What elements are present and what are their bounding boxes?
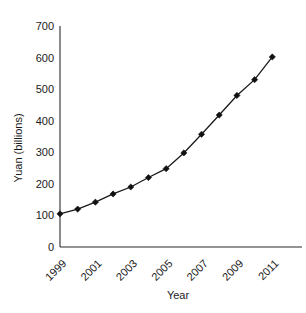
- y-tick-label: 400: [36, 115, 54, 127]
- x-tick-label: 2009: [220, 257, 246, 283]
- x-tick-label: 2007: [184, 257, 210, 283]
- x-axis-title: Year: [167, 289, 190, 301]
- y-tick-labels: 0100200300400500600700: [36, 20, 54, 253]
- data-point-marker: [57, 211, 63, 217]
- data-point-marker: [110, 191, 116, 197]
- x-tick-label: 1999: [43, 257, 69, 283]
- y-tick-label: 100: [36, 209, 54, 221]
- x-tick-label: 2003: [113, 257, 139, 283]
- x-tick-label: 2001: [78, 257, 104, 283]
- line-chart: 0100200300400500600700 19992001200320052…: [0, 0, 306, 313]
- x-tick-label: 2005: [149, 257, 175, 283]
- data-point-marker: [145, 174, 151, 180]
- y-tick-label: 600: [36, 52, 54, 64]
- y-tick-label: 500: [36, 83, 54, 95]
- x-tick-label: 2011: [256, 257, 281, 282]
- y-axis-title: Yuan (billions): [12, 113, 24, 182]
- x-tick-labels: 1999200120032005200720092011: [43, 257, 281, 283]
- y-tick-label: 700: [36, 20, 54, 32]
- data-point-marker: [128, 184, 134, 190]
- y-tick-label: 200: [36, 178, 54, 190]
- data-series-group: [57, 54, 276, 217]
- data-point-marker: [75, 206, 81, 212]
- y-tick-label: 0: [48, 241, 54, 253]
- chart-figure: 0100200300400500600700 19992001200320052…: [0, 0, 306, 313]
- y-tick-label: 300: [36, 146, 54, 158]
- series-line: [60, 57, 272, 214]
- data-point-marker: [92, 199, 98, 205]
